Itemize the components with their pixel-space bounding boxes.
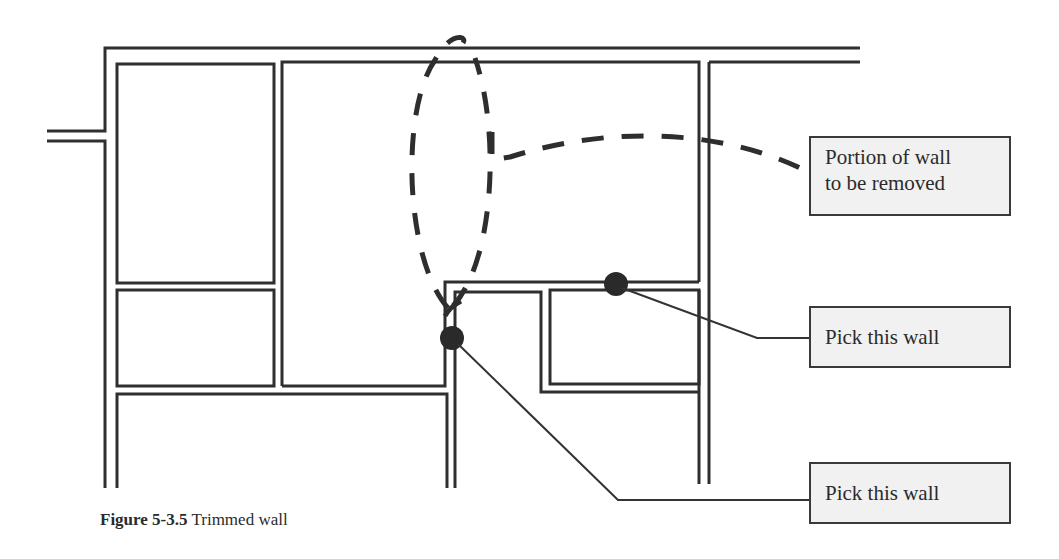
callout-line-1: Portion of wall [825,144,999,170]
room-small-right [550,290,699,384]
callout-pick-wall-2: Pick this wall [809,462,1011,524]
callout-text: Pick this wall [825,325,939,349]
leader-pick2 [458,344,810,500]
figure-title: Trimmed wall [191,510,287,529]
room-top-left [117,64,274,283]
leader-pick1 [622,288,810,338]
callout-text: Pick this wall [825,481,939,505]
removal-leader-dashed [492,132,800,168]
figure-caption: Figure 5-3.5 Trimmed wall [100,510,288,530]
callout-portion-removed: Portion of wall to be removed [809,136,1011,216]
room-center [282,62,699,386]
callout-pick-wall-1: Pick this wall [809,306,1011,368]
pick-point-marker-1[interactable] [604,272,628,296]
room-mid-left [117,290,274,386]
room-bottom-left [117,394,447,488]
figure-label: Figure 5-3.5 [100,510,188,529]
removal-region-ellipse [412,37,490,316]
callout-line-2: to be removed [825,170,999,196]
